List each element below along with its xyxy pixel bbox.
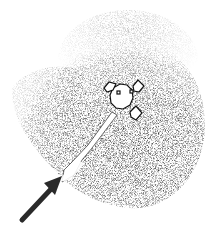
arrow-indicator	[22, 176, 62, 220]
stippled-illustration	[0, 0, 213, 232]
dark-surface-zone	[12, 10, 205, 208]
